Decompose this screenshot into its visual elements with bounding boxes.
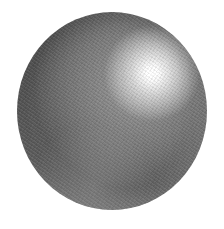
reflected-light	[17, 12, 207, 210]
shaded-sphere	[17, 12, 207, 210]
